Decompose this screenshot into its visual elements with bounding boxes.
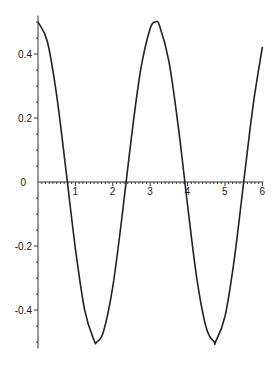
y-tick-label: 0.4 (18, 49, 32, 60)
x-tick-label: 2 (110, 186, 116, 197)
y-tick-label: -0.2 (15, 241, 33, 252)
line-chart: 1234560.40.20-0.2-0.4 (0, 0, 278, 366)
y-tick-label: 0 (20, 177, 26, 188)
x-tick-label: 6 (259, 186, 265, 197)
x-tick-label: 5 (222, 186, 228, 197)
x-tick-label: 3 (147, 186, 153, 197)
y-tick-label: 0.2 (18, 113, 32, 124)
x-tick-label: 1 (72, 186, 78, 197)
y-tick-label: -0.4 (15, 305, 33, 316)
